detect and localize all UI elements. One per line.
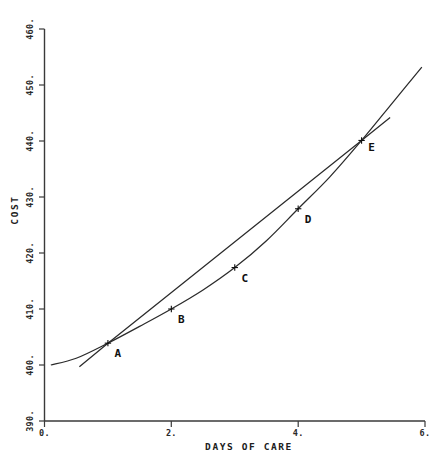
y-tick-label-440: 440. bbox=[25, 130, 35, 152]
data-point-label-d: D bbox=[305, 213, 312, 226]
data-point-label-b: B bbox=[178, 313, 185, 326]
y-tick-label-430: 430. bbox=[25, 186, 35, 208]
chart-background bbox=[0, 0, 438, 458]
data-point-label-e: E bbox=[368, 141, 375, 154]
y-tick-label-390: 390. bbox=[25, 410, 35, 432]
chart-container: 460. 450. 440. 430. 420. 410. 400. 390. … bbox=[0, 0, 438, 458]
cost-vs-days-of-care-chart: 460. 450. 440. 430. 420. 410. 400. 390. … bbox=[0, 0, 438, 458]
x-tick-label-2: 2. bbox=[166, 428, 177, 438]
y-tick-label-410: 410. bbox=[25, 298, 35, 320]
y-tick-label-420: 420. bbox=[25, 242, 35, 264]
x-tick-label-0: 0. bbox=[39, 428, 50, 438]
x-tick-label-4: 4. bbox=[293, 428, 304, 438]
y-tick-label-450: 450. bbox=[25, 74, 35, 96]
x-tick-label-6: 6. bbox=[420, 428, 431, 438]
y-axis-title: COST bbox=[9, 195, 20, 224]
y-tick-label-400: 400. bbox=[25, 354, 35, 376]
data-point-label-a: A bbox=[115, 347, 122, 360]
y-tick-label-460: 460. bbox=[25, 18, 35, 40]
x-axis-title: DAYS OF CARE bbox=[205, 441, 293, 452]
data-point-label-c: C bbox=[241, 272, 248, 285]
